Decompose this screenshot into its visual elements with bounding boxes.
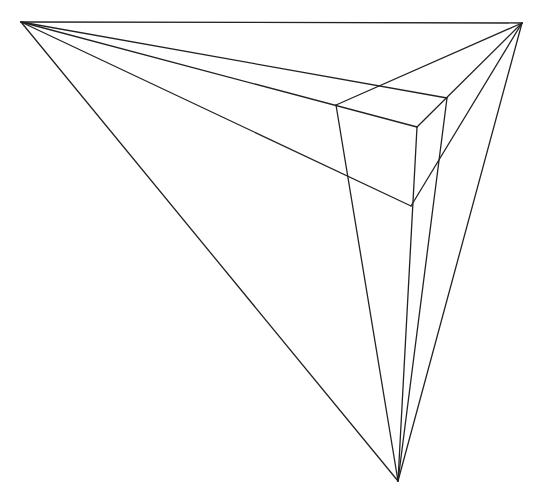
construction-lines [21,22,522,481]
vp-left-through-top-left-to-top-front [21,22,417,127]
vp-bottom-to-top-front [398,127,417,481]
vp-left-to-bottom-front [21,22,411,206]
vp-right-to-top-front [417,23,522,127]
right-to-bottom-vp-line [398,23,522,481]
vp-right-through-top-back-to-top-left [336,23,522,105]
horizon-line [21,22,522,23]
perspective-diagram [0,0,539,499]
left-to-bottom-vp-line [21,22,398,481]
vp-bottom-to-top-left [336,105,398,481]
vp-right-through-top-front-to-bottom-front [411,23,522,206]
vp-left-through-top-back-to-top-right [21,22,447,98]
vp-bottom-to-top-right [398,98,447,481]
